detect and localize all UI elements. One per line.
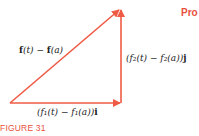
horizontal-component-text: (f₁(t) − f₁(a))	[37, 107, 94, 117]
hypotenuse-vector-arrow	[10, 10, 119, 103]
side-heading: Pro	[181, 7, 198, 18]
unit-vector-i: i	[94, 107, 97, 117]
vector-triangle-diagram	[0, 0, 199, 136]
unit-vector-j: j	[183, 53, 186, 63]
hyp-part-1: (t) −	[23, 45, 47, 55]
horizontal-component-label: (f₁(t) − f₁(a))i	[37, 107, 98, 117]
vertical-component-text: (f₂(t) − f₂(a))	[126, 53, 183, 63]
figure-caption: FIGURE 31	[0, 123, 46, 133]
vertical-component-label: (f₂(t) − f₂(a))j	[126, 53, 186, 63]
hypotenuse-label: f(t) − f(a)	[19, 45, 63, 55]
hyp-part-2: (a)	[51, 45, 63, 55]
